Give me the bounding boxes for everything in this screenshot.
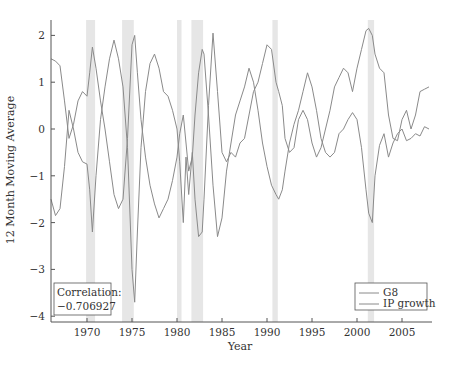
x-tick-label: 1995 <box>299 326 326 338</box>
x-tick-label: 1990 <box>254 326 281 338</box>
correlation-label: Correlation: <box>57 286 121 298</box>
y-axis-title: 12 Month Moving Average <box>4 96 17 244</box>
x-tick-label: 1970 <box>74 326 101 338</box>
y-tick-label: 1 <box>38 76 45 88</box>
y-tick-label: 2 <box>38 29 45 41</box>
x-tick-label: 1975 <box>119 326 146 338</box>
legend: G8 IP growth <box>355 283 436 310</box>
x-axis-title: Year <box>227 340 253 353</box>
y-tick-label: −4 <box>30 310 46 322</box>
legend-item-ip-growth: IP growth <box>383 297 436 309</box>
recession-band <box>368 20 374 322</box>
recession-shading <box>86 20 374 322</box>
y-tick-label: −2 <box>30 217 45 229</box>
x-tick-label: 1980 <box>164 326 191 338</box>
correlation-annotation: Correlation: −0.706927 <box>54 283 121 315</box>
x-tick-label: 2000 <box>344 326 371 338</box>
correlation-value: −0.706927 <box>57 300 116 312</box>
line-chart: −4−3−2−1012 1970197519801985199019952000… <box>0 0 453 366</box>
y-tick-label: 0 <box>38 123 45 135</box>
y-tick-label: −3 <box>30 263 45 275</box>
recession-band <box>177 20 182 322</box>
y-tick-label: −1 <box>30 170 45 182</box>
x-tick-label: 1985 <box>209 326 236 338</box>
x-tick-label: 2005 <box>389 326 416 338</box>
